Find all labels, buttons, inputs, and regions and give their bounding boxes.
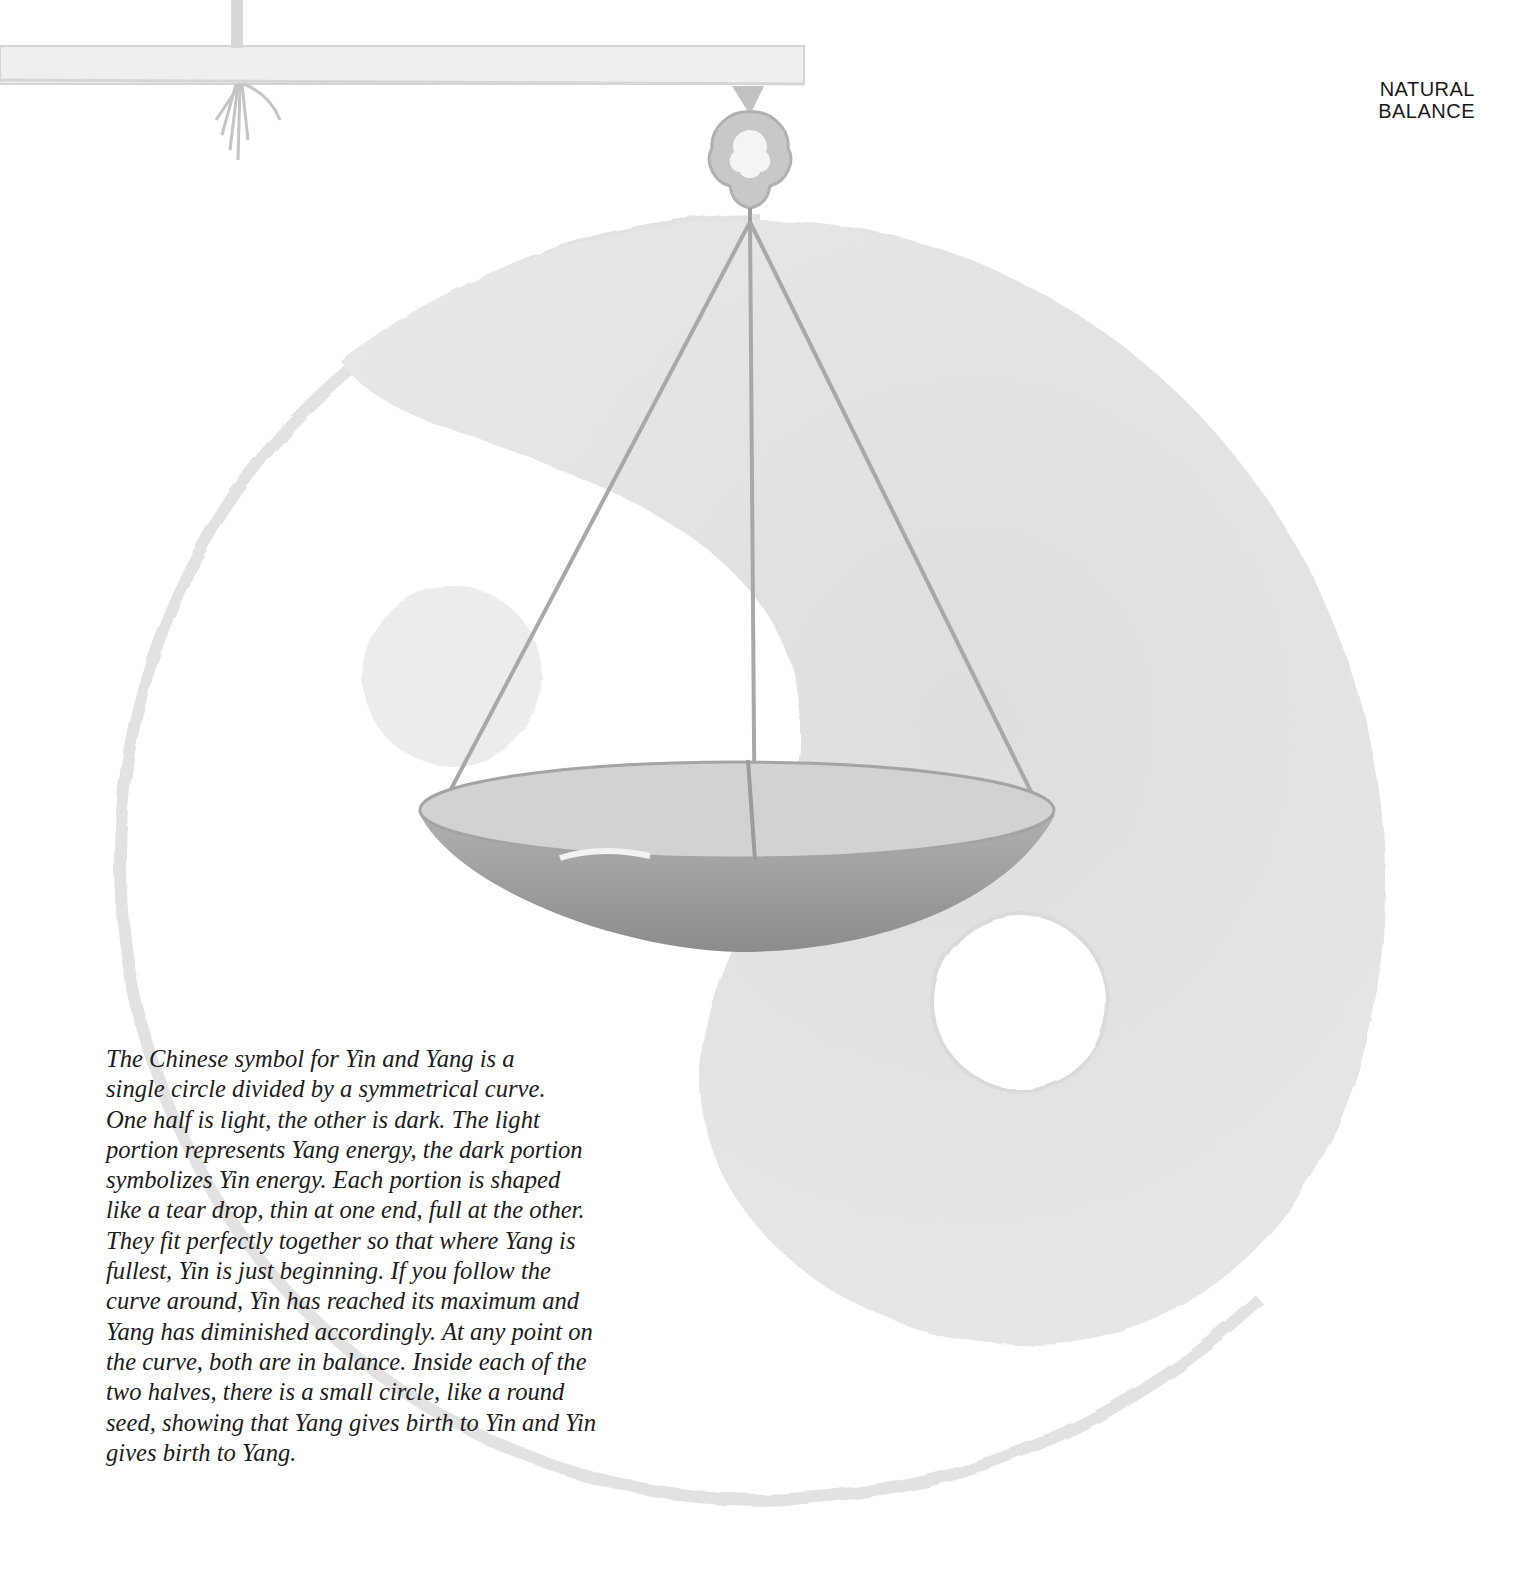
book-page: NATURAL BALANCE The Chinese symbol for Y… (0, 0, 1533, 1586)
caption-line: One half is light, the other is dark. Th… (106, 1105, 706, 1135)
caption-line: curve around, Yin has reached its maximu… (106, 1286, 706, 1316)
running-head: NATURAL BALANCE (1378, 78, 1475, 122)
caption-line: like a tear drop, thin at one end, full … (106, 1195, 706, 1225)
running-head-line-1: NATURAL (1378, 78, 1475, 100)
caption-line: the curve, both are in balance. Inside e… (106, 1347, 706, 1377)
caption-paragraph: The Chinese symbol for Yin and Yang is a… (106, 1044, 706, 1468)
caption-line: They fit perfectly together so that wher… (106, 1226, 706, 1256)
caption-line: The Chinese symbol for Yin and Yang is a (106, 1044, 706, 1074)
caption-line: single circle divided by a symmetrical c… (106, 1074, 706, 1104)
caption-line: portion represents Yang energy, the dark… (106, 1135, 706, 1165)
yin-seed (362, 586, 542, 766)
running-head-line-2: BALANCE (1378, 100, 1475, 122)
caption-line: gives birth to Yang. (106, 1438, 706, 1468)
caption-line: Yang has diminished accordingly. At any … (106, 1317, 706, 1347)
caption-line: fullest, Yin is just beginning. If you f… (106, 1256, 706, 1286)
scale-beam (0, 0, 804, 160)
caption-line: seed, showing that Yang gives birth to Y… (106, 1408, 706, 1438)
yang-seed (932, 914, 1108, 1090)
hanging-ornament (709, 86, 791, 225)
caption-line: two halves, there is a small circle, lik… (106, 1377, 706, 1407)
caption-line: symbolizes Yin energy. Each portion is s… (106, 1165, 706, 1195)
